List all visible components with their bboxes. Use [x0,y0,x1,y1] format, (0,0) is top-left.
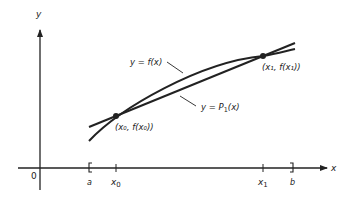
tick-x1-label: x1 [257,177,268,189]
point-x1 [260,53,266,59]
interval-right-label: b [290,178,295,187]
y-axis-label: y [35,9,42,19]
interval-left-bracket: a [87,163,92,187]
origin-label: 0 [31,171,37,181]
point-x0-label: (x₀, f(x₀)) [115,122,154,132]
curve-f-leader [167,62,183,73]
tick-x0-label: x0 [110,177,121,189]
x-axis-label: x [330,163,337,173]
line-p1-leader [180,96,196,106]
point-x1-label: (x₁, f(x₁)) [262,62,301,72]
interval-right-bracket: b [290,163,295,187]
interpolation-diagram: y x 0 a b x0 x1 [0,0,359,199]
curve-f-label: y = f(x) [129,57,162,67]
y-axis: y [35,9,42,190]
interval-left-label: a [87,178,92,187]
point-x0 [113,113,119,119]
line-p1-label: y = P1(x) [200,102,240,114]
